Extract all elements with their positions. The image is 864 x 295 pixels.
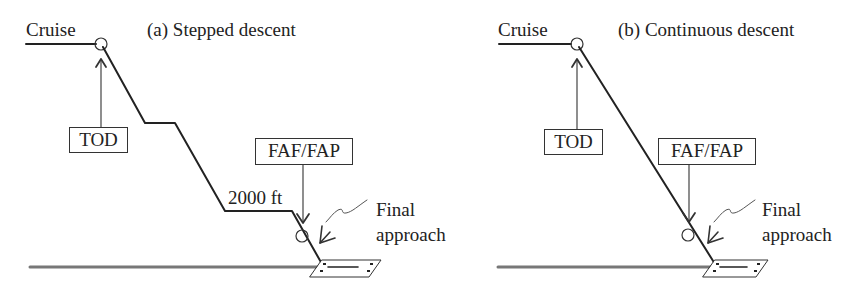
faf-marker-b (682, 229, 694, 241)
final-approach-pointer-b (714, 200, 755, 222)
runway-a (310, 260, 381, 277)
tod-marker-b (571, 38, 583, 50)
faf-box-a: FAF/FAP (255, 138, 353, 165)
panel-title-b: (b) Continuous descent (618, 20, 794, 40)
tod-box-b: TOD (544, 129, 603, 155)
cruise-label-a: Cruise (26, 20, 76, 40)
altitude-label: 2000 ft (228, 188, 282, 208)
panel-title-a: (a) Stepped descent (147, 20, 296, 40)
final-approach-label-a-2: approach (376, 225, 446, 245)
final-approach-label-a-1: Final (376, 200, 415, 220)
final-approach-label-b-1: Final (762, 200, 801, 220)
final-approach-pointer-a (326, 200, 367, 222)
faf-box-b: FAF/FAP (658, 138, 756, 165)
runway-b (703, 260, 768, 277)
cruise-label-b: Cruise (498, 20, 548, 40)
final-approach-label-b-2: approach (762, 225, 832, 245)
tod-box-a: TOD (69, 127, 128, 153)
